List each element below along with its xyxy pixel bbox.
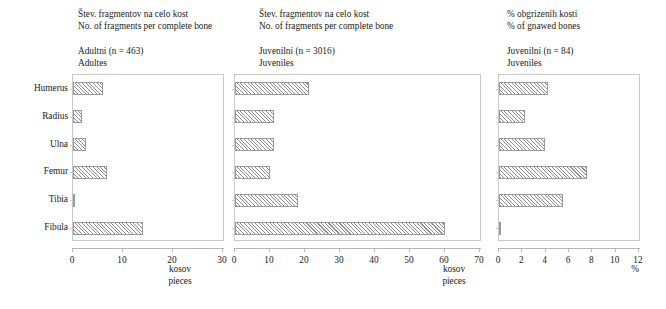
- bar-tibia[interactable]: [73, 194, 75, 207]
- x-tick: [591, 248, 592, 252]
- x-tick-label: 4: [542, 255, 547, 265]
- x-axis-title: kosov pieces: [168, 263, 191, 288]
- y-tick: [496, 228, 499, 229]
- panel-header: Štev. fragmentov na celo kost No. of fra…: [259, 8, 393, 70]
- x-tick-label: 30: [334, 255, 343, 265]
- x-tick-label: 6: [566, 255, 571, 265]
- bar-tibia[interactable]: [235, 194, 298, 207]
- x-tick-label: 0: [496, 255, 501, 265]
- y-tick: [70, 117, 73, 118]
- bar-row: [73, 186, 223, 214]
- x-tick-label: 0: [70, 255, 75, 265]
- x-tick: [568, 248, 569, 252]
- x-axis-title-en: pieces: [442, 275, 465, 287]
- x-tick: [172, 248, 173, 252]
- y-tick: [70, 172, 73, 173]
- bar-femur[interactable]: [235, 166, 270, 179]
- x-tick: [339, 248, 340, 252]
- x-tick: [72, 248, 73, 252]
- bar-row: [499, 159, 639, 187]
- bar-row: [73, 75, 223, 103]
- x-tick-label: 8: [589, 255, 594, 265]
- bar-fibula[interactable]: [499, 222, 501, 235]
- panel-header: Štev. fragmentov na celo kost No. of fra…: [78, 8, 212, 70]
- bar-humerus[interactable]: [73, 82, 103, 95]
- x-tick-label: 2: [519, 255, 524, 265]
- panel-juveniles-fragments: Štev. fragmentov na celo kost No. of fra…: [232, 0, 485, 309]
- bar-row: [73, 131, 223, 159]
- x-tick-label: 20: [299, 255, 308, 265]
- panel-caption-en: % of gnawed bones: [507, 20, 580, 32]
- figure-bone-fragmentation: Štev. fragmentov na celo kost No. of fra…: [0, 0, 666, 309]
- y-axis-label-femur: Femur: [44, 166, 68, 176]
- x-axis-title: kosov pieces: [442, 263, 465, 288]
- y-tick: [232, 145, 235, 146]
- bar-radius[interactable]: [73, 110, 82, 123]
- bar-ulna[interactable]: [235, 138, 274, 151]
- panel-group-sl: Juvenilni (n = 84): [507, 45, 580, 57]
- panel-caption-en: No. of fragments per complete bone: [78, 20, 212, 32]
- x-tick: [374, 248, 375, 252]
- panel-juveniles-gnawed: % obgrizenih kosti % of gnawed bones Juv…: [485, 0, 666, 309]
- x-axis: 010203040506070: [234, 248, 481, 249]
- x-axis-title-sl: %: [631, 263, 639, 275]
- y-tick: [232, 89, 235, 90]
- x-axis-title-en: pieces: [168, 275, 191, 287]
- bar-fibula[interactable]: [73, 222, 143, 235]
- x-tick: [521, 248, 522, 252]
- y-axis-labels: HumerusRadiusUlnaFemurTibiaFibula: [0, 74, 68, 241]
- bar-humerus[interactable]: [235, 82, 309, 95]
- x-tick-label: 10: [264, 255, 273, 265]
- x-tick-label: 30: [217, 255, 226, 265]
- bar-row: [499, 103, 639, 131]
- y-axis-label-radius: Radius: [42, 111, 68, 121]
- bar-ulna[interactable]: [73, 138, 86, 151]
- panel-caption-sl: Štev. fragmentov na celo kost: [259, 8, 393, 20]
- y-axis-label-humerus: Humerus: [34, 83, 68, 93]
- bar-radius[interactable]: [499, 110, 525, 123]
- bar-femur[interactable]: [73, 166, 107, 179]
- x-tick: [122, 248, 123, 252]
- bar-ulna[interactable]: [499, 138, 545, 151]
- y-tick: [232, 117, 235, 118]
- y-tick: [232, 172, 235, 173]
- y-tick: [232, 200, 235, 201]
- y-tick: [70, 228, 73, 229]
- x-tick: [498, 248, 499, 252]
- x-axis-title: %: [631, 263, 639, 275]
- bar-fibula[interactable]: [235, 222, 445, 235]
- bar-femur[interactable]: [499, 166, 587, 179]
- x-tick: [234, 248, 235, 252]
- panel-caption-sl: Štev. fragmentov na celo kost: [78, 8, 212, 20]
- bar-row: [499, 75, 639, 103]
- bar-row: [235, 186, 480, 214]
- x-tick: [444, 248, 445, 252]
- x-axis: 024681012: [498, 248, 640, 249]
- x-tick: [615, 248, 616, 252]
- panel-header: % obgrizenih kosti % of gnawed bones Juv…: [507, 8, 580, 70]
- plot-area: [498, 74, 640, 241]
- y-tick: [496, 200, 499, 201]
- panel-group-en: Adultes: [78, 57, 212, 69]
- x-tick-label: 70: [474, 255, 483, 265]
- x-tick: [269, 248, 270, 252]
- bar-row: [235, 131, 480, 159]
- y-tick: [496, 145, 499, 146]
- x-tick-label: 50: [404, 255, 413, 265]
- bar-row: [499, 214, 639, 242]
- y-tick: [496, 172, 499, 173]
- bar-row: [499, 186, 639, 214]
- x-tick: [222, 248, 223, 252]
- bar-humerus[interactable]: [499, 82, 548, 95]
- x-tick: [479, 248, 480, 252]
- bar-radius[interactable]: [235, 110, 274, 123]
- y-tick: [232, 228, 235, 229]
- x-tick-label: 10: [610, 255, 619, 265]
- bar-tibia[interactable]: [499, 194, 563, 207]
- x-tick: [304, 248, 305, 252]
- bar-row: [235, 75, 480, 103]
- panel-group-en: Juveniles: [507, 57, 580, 69]
- plot-area: [72, 74, 224, 241]
- bar-row: [73, 103, 223, 131]
- x-tick-label: 0: [232, 255, 237, 265]
